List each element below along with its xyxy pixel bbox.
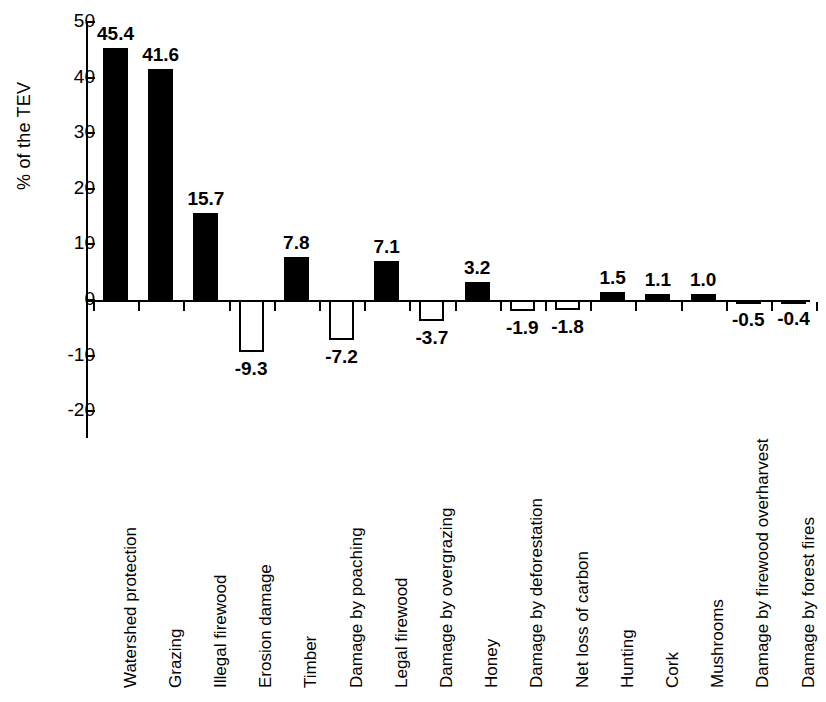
x-tick-mark (590, 302, 592, 311)
x-category-label: Grazing (167, 628, 184, 688)
y-tick-label-wrap: -10 (0, 355, 95, 357)
bar-value-label: -0.4 (759, 309, 826, 328)
x-category-label: Timber (302, 636, 319, 688)
x-category-label: Damage by poaching (348, 527, 365, 688)
x-category-label: Legal firewood (393, 577, 410, 688)
bar (239, 300, 264, 352)
x-category-label: Watershed protection (122, 527, 139, 688)
x-category-label: Net loss of carbon (574, 551, 591, 688)
x-tick-mark (274, 302, 276, 311)
y-tick-label: -10 (49, 345, 95, 364)
x-tick-mark (545, 302, 547, 311)
x-tick-mark (455, 302, 457, 311)
x-tick-mark (681, 302, 683, 311)
y-tick-label: -20 (49, 400, 95, 419)
x-category-label: Mushrooms (709, 599, 726, 688)
x-tick-mark (319, 302, 321, 311)
y-tick-label: 30 (49, 122, 95, 141)
bar (103, 48, 128, 300)
bar (736, 300, 761, 304)
x-category-label: Damage by deforestation (528, 498, 545, 688)
x-category-label: Damage by firewood overharvest (754, 439, 771, 688)
x-tick-mark (409, 302, 411, 311)
bar (148, 69, 173, 300)
y-tick-label: 0 (49, 289, 95, 308)
bar (374, 261, 399, 300)
bar (781, 300, 806, 304)
bar-value-label: 3.2 (442, 258, 512, 277)
y-tick-label: 20 (49, 178, 95, 197)
bar (329, 300, 354, 340)
x-category-label: Damage by overgrazing (438, 508, 455, 688)
bar (419, 300, 444, 321)
bar-value-label: 15.7 (171, 189, 241, 208)
y-tick-label-wrap: 40 (0, 77, 95, 79)
x-category-label: Illegal firewood (212, 575, 229, 688)
bar-value-label: -7.2 (307, 347, 377, 366)
bar-value-label: 7.1 (352, 237, 422, 256)
bar-value-label: -9.3 (216, 359, 286, 378)
x-category-label: Damage by forest fires (800, 517, 817, 688)
bar (193, 213, 218, 300)
bar (465, 282, 490, 300)
y-tick-label-wrap: 10 (0, 243, 95, 245)
bar-value-label: -1.8 (533, 317, 603, 336)
x-tick-mark (138, 302, 140, 311)
x-tick-mark (229, 302, 231, 311)
x-category-label: Honey (483, 639, 500, 688)
bar (691, 294, 716, 300)
x-tick-mark (635, 302, 637, 311)
bar (645, 294, 670, 300)
x-tick-mark (500, 302, 502, 311)
x-category-label: Erosion damage (257, 564, 274, 688)
x-axis-zero-line (86, 300, 810, 302)
bar (555, 300, 580, 310)
y-tick-label: 10 (49, 233, 95, 252)
x-tick-mark (364, 302, 366, 311)
y-tick-label-wrap: -20 (0, 410, 95, 412)
bar-chart: % of the TEV 50403020100-10-20 45.441.61… (0, 0, 826, 702)
y-tick-label-wrap: 0 (0, 299, 95, 301)
y-tick-label-wrap: 30 (0, 132, 95, 134)
bar-value-label: -3.7 (397, 328, 467, 347)
x-tick-mark (183, 302, 185, 311)
bar (284, 257, 309, 300)
bar-value-label: 1.0 (668, 270, 738, 289)
bar-value-label: 45.4 (81, 24, 151, 43)
y-tick-label: 40 (49, 67, 95, 86)
bar (510, 300, 535, 311)
y-tick-label-wrap: 20 (0, 188, 95, 190)
x-tick-mark (93, 302, 95, 311)
bar-value-label: 7.8 (261, 233, 331, 252)
y-axis-title: % of the TEV (14, 0, 35, 190)
x-category-label: Cork (664, 652, 681, 688)
bar-value-label: 41.6 (126, 45, 196, 64)
bar (600, 292, 625, 300)
x-category-label: Hunting (619, 629, 636, 688)
